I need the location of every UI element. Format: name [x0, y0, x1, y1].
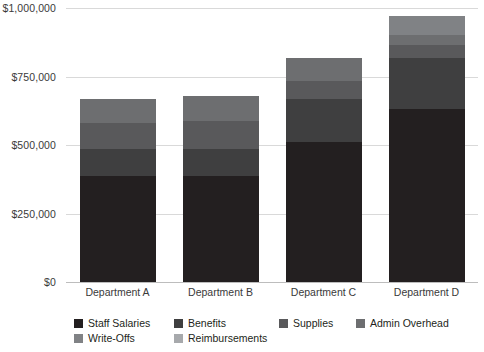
legend-label: Benefits	[188, 318, 226, 329]
bar-segment[interactable]	[80, 149, 156, 176]
bar-segment[interactable]	[183, 176, 259, 282]
legend-label: Supplies	[293, 318, 333, 329]
y-tick-label: $250,000	[11, 208, 56, 220]
legend-label: Staff Salaries	[88, 318, 150, 329]
x-tick-label: Department C	[291, 286, 356, 298]
y-axis-labels: $0$250,000$500,000$750,000$1,000,000	[0, 8, 62, 282]
bar-segment[interactable]	[389, 109, 465, 282]
bar-segment[interactable]	[80, 176, 156, 282]
y-tick-label: $0	[44, 276, 56, 288]
x-axis-labels: Department ADepartment BDepartment CDepa…	[66, 286, 478, 304]
bar-segment[interactable]	[389, 35, 465, 45]
y-tick-label: $1,000,000	[2, 2, 56, 14]
y-tick-label: $500,000	[11, 139, 56, 151]
bar-group[interactable]	[389, 16, 465, 282]
bar-group[interactable]	[183, 96, 259, 282]
legend-entry[interactable]: Supplies	[279, 316, 333, 331]
legend-row: Staff SalariesBenefitsSuppliesAdmin Over…	[66, 316, 478, 331]
bar-segment[interactable]	[389, 45, 465, 58]
bar-segment[interactable]	[389, 58, 465, 109]
legend-swatch-icon	[174, 319, 183, 328]
legend-swatch-icon	[74, 319, 83, 328]
x-tick-label: Department A	[85, 286, 149, 298]
bar-group[interactable]	[80, 99, 156, 282]
legend-entry[interactable]: Benefits	[174, 316, 226, 331]
legend-label: Write-Offs	[88, 333, 135, 344]
legend-entry[interactable]: Reimbursements	[174, 331, 267, 346]
legend-swatch-icon	[356, 319, 365, 328]
bars-layer	[66, 8, 478, 282]
bar-segment[interactable]	[286, 58, 362, 80]
bar-segment[interactable]	[80, 123, 156, 150]
bar-segment[interactable]	[286, 81, 362, 99]
legend-entry[interactable]: Write-Offs	[74, 331, 135, 346]
legend-row: Write-OffsReimbursements	[66, 331, 478, 346]
gridline	[66, 282, 478, 283]
bar-segment[interactable]	[183, 149, 259, 176]
stacked-bar-chart: $0$250,000$500,000$750,000$1,000,000 Dep…	[0, 0, 484, 352]
bar-segment[interactable]	[80, 99, 156, 123]
bar-group[interactable]	[286, 58, 362, 282]
x-tick-label: Department D	[394, 286, 459, 298]
bar-segment[interactable]	[286, 142, 362, 282]
legend-label: Admin Overhead	[370, 318, 449, 329]
bar-segment[interactable]	[183, 96, 259, 121]
y-tick-label: $750,000	[11, 71, 56, 83]
bar-segment[interactable]	[183, 121, 259, 149]
chart-legend: Staff SalariesBenefitsSuppliesAdmin Over…	[66, 316, 478, 348]
legend-swatch-icon	[174, 334, 183, 343]
legend-entry[interactable]: Admin Overhead	[356, 316, 449, 331]
bar-segment[interactable]	[286, 99, 362, 142]
plot-area	[66, 8, 478, 282]
legend-swatch-icon	[279, 319, 288, 328]
x-tick-label: Department B	[188, 286, 253, 298]
legend-swatch-icon	[74, 334, 83, 343]
bar-segment[interactable]	[389, 16, 465, 34]
legend-entry[interactable]: Staff Salaries	[74, 316, 150, 331]
legend-label: Reimbursements	[188, 333, 267, 344]
